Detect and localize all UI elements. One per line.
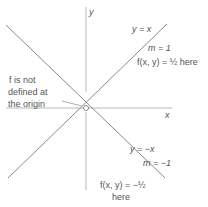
eq-y-equals-x: y = x bbox=[132, 24, 151, 34]
x-axis-label: x bbox=[165, 110, 170, 120]
value-note-2: f(x, y) = −½ bbox=[100, 180, 146, 190]
origin-note-1: f is not bbox=[9, 75, 36, 85]
origin-pointer bbox=[62, 101, 82, 106]
diagram: y x y = x m = 1 f(x, y) = ½ here f is no… bbox=[0, 0, 208, 207]
slope-neg-1: m = −1 bbox=[143, 158, 171, 168]
origin-hole bbox=[84, 106, 89, 111]
eq-y-equals-neg-x: y = −x bbox=[130, 144, 155, 154]
value-note-2-here: here bbox=[112, 192, 130, 202]
slope-1: m = 1 bbox=[148, 43, 171, 53]
origin-note-2: defined at bbox=[8, 87, 48, 97]
origin-note-3: the origin bbox=[8, 99, 45, 109]
y-axis-label: y bbox=[89, 7, 94, 17]
value-note-1: f(x, y) = ½ here bbox=[137, 57, 198, 67]
